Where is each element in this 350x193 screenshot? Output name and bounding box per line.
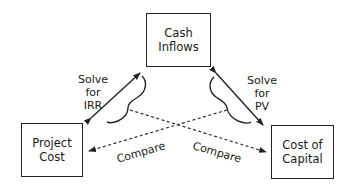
cash-inflows-line2: Inflows [158, 40, 198, 54]
solve-pv-line1: Solve [244, 74, 280, 87]
solve-pv-line3: PV [244, 100, 280, 113]
solve-pv-line2: for [244, 87, 280, 100]
solve-for-irr-label: Solve for IRR [76, 73, 110, 112]
project-cost-node: Project Cost [21, 123, 83, 177]
cost-of-capital-node: Cost of Capital [271, 125, 334, 179]
solve-for-pv-label: Solve for PV [244, 74, 280, 113]
irr-brace-icon [107, 76, 145, 123]
solve-irr-line3: IRR [76, 99, 110, 112]
cash-inflows-node: Cash Inflows [146, 13, 211, 67]
cost-of-capital-line2: Capital [282, 152, 322, 166]
solve-irr-line1: Solve [76, 73, 110, 86]
project-cost-line1: Project [32, 136, 71, 150]
cash-inflows-line1: Cash [164, 26, 192, 40]
cost-of-capital-line1: Cost of [282, 138, 322, 152]
solve-irr-line2: for [76, 86, 110, 99]
project-cost-line2: Cost [39, 150, 65, 164]
